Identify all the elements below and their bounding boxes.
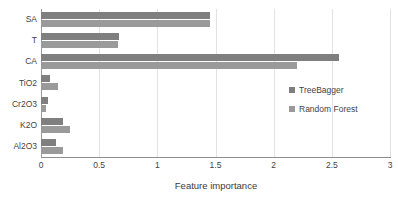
category-label-CA: CA <box>0 57 37 66</box>
chart-screenshot: SATCATiO2Cr2O3K2OAl2O3 00.511.522.53 Fea… <box>0 0 398 206</box>
bar-T-treebagger <box>41 33 119 40</box>
bar-group-SA <box>41 9 390 30</box>
bar-K2O-random-forest <box>41 126 70 133</box>
bar-TiO2-random-forest <box>41 83 58 90</box>
bar-chart: SATCATiO2Cr2O3K2OAl2O3 00.511.522.53 Fea… <box>0 0 398 206</box>
bar-Cr2O3-treebagger <box>41 97 48 104</box>
x-tick-label-2.5: 2.5 <box>326 160 338 171</box>
chart-legend: TreeBaggerRandom Forest <box>289 85 389 123</box>
x-tick-label-1.5: 1.5 <box>210 160 222 171</box>
bar-CA-random-forest <box>41 62 297 69</box>
bar-K2O-treebagger <box>41 118 63 125</box>
legend-swatch-icon <box>289 106 295 112</box>
x-tick-label-0.5: 0.5 <box>93 160 105 171</box>
bar-SA-random-forest <box>41 20 210 27</box>
legend-swatch-icon <box>289 87 295 93</box>
category-label-SA: SA <box>0 15 37 24</box>
bar-SA-treebagger <box>41 12 210 19</box>
bars-layer <box>41 9 390 157</box>
bar-Al2O3-random-forest <box>41 147 63 154</box>
bar-Cr2O3-random-forest <box>41 105 46 112</box>
category-label-Al2O3: Al2O3 <box>0 142 37 151</box>
plot-area <box>41 9 390 157</box>
category-label-TiO2: TiO2 <box>0 79 37 88</box>
gridline-3 <box>390 9 391 157</box>
bar-CA-treebagger <box>41 54 339 61</box>
x-tick-label-0: 0 <box>39 160 44 171</box>
bar-group-CA <box>41 51 390 72</box>
category-label-T: T <box>0 36 37 45</box>
bar-TiO2-treebagger <box>41 75 50 82</box>
x-axis-tick-labels: 00.511.522.53 <box>0 160 398 174</box>
bar-T-random-forest <box>41 41 118 48</box>
x-tick-label-1: 1 <box>155 160 160 171</box>
x-tick-label-2: 2 <box>271 160 276 171</box>
bar-Al2O3-treebagger <box>41 139 56 146</box>
x-axis-title: Feature importance <box>41 180 391 192</box>
legend-label: TreeBagger <box>299 85 344 95</box>
category-axis-labels: SATCATiO2Cr2O3K2OAl2O3 <box>0 9 37 157</box>
caption-artifact <box>0 197 398 206</box>
x-tick-label-3: 3 <box>388 160 393 171</box>
category-label-K2O: K2O <box>0 121 37 130</box>
category-label-Cr2O3: Cr2O3 <box>0 100 37 109</box>
bar-group-Al2O3 <box>41 136 390 157</box>
legend-entry-random-forest[interactable]: Random Forest <box>289 104 389 114</box>
legend-label: Random Forest <box>299 104 358 114</box>
legend-entry-treebagger[interactable]: TreeBagger <box>289 85 389 95</box>
x-axis-line <box>41 157 391 158</box>
bar-group-T <box>41 30 390 51</box>
